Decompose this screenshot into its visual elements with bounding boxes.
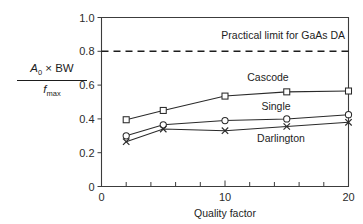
series-line-cascode	[126, 91, 348, 120]
plot-canvas: 00.20.40.60.81.0 01020 CascodeSingleDarl…	[0, 0, 363, 224]
marker-circle-single	[222, 117, 228, 123]
y-tick-label: 0	[88, 181, 94, 193]
x-tick-label: 0	[98, 191, 104, 203]
y-tick-label: 1.0	[79, 12, 94, 24]
series-labels-group: CascodeSingleDarlington	[247, 71, 305, 144]
series-label-cascode: Cascode	[247, 71, 289, 83]
series-line-darlington	[126, 122, 348, 141]
practical-limit-label: Practical limit for GaAs DA	[221, 29, 345, 41]
x-axis-title: Quality factor	[194, 207, 256, 219]
series-label-single: Single	[261, 100, 290, 112]
marker-circle-single	[345, 112, 351, 118]
y-tick-label: 0.8	[79, 45, 94, 57]
y-axis-label-denominator: fmax	[6, 83, 98, 99]
y-tick-label: 0.2	[79, 147, 94, 159]
series-label-darlington: Darlington	[257, 132, 305, 144]
marker-circle-single	[284, 116, 290, 122]
marker-square-cascode	[160, 107, 166, 113]
y-tick-group: 00.20.40.60.81.0	[79, 12, 101, 193]
marker-cross-darlington	[123, 139, 129, 145]
y-tick-label: 0.4	[79, 113, 94, 125]
chart-figure: A0 × BW fmax 00.20.40.60.81.0 01020 Casc…	[0, 0, 363, 224]
marker-square-cascode	[123, 117, 129, 123]
marker-square-cascode	[222, 93, 228, 99]
plot-frame	[102, 18, 349, 187]
fraction-rule	[17, 80, 87, 81]
marker-square-cascode	[346, 88, 352, 94]
y-axis-label-numerator: A0 × BW	[6, 62, 98, 79]
x-tick-label: 20	[342, 191, 354, 203]
x-tick-group: 01020	[98, 181, 354, 203]
x-tick-label: 10	[219, 191, 231, 203]
marker-circle-single	[123, 133, 129, 139]
series-line-single	[126, 115, 348, 136]
series-lines-group	[126, 91, 348, 142]
axes-group	[102, 18, 349, 187]
marker-square-cascode	[284, 89, 290, 95]
y-axis-label: A0 × BW fmax	[6, 62, 98, 99]
